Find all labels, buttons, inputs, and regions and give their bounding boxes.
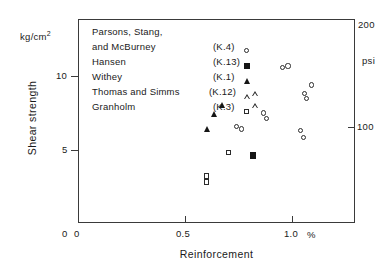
x-tick-mark-1.0 bbox=[292, 216, 293, 223]
y-tick-mark-10 bbox=[71, 76, 78, 77]
x-axis-title: Reinforcement bbox=[78, 248, 355, 260]
legend-marker-open-triangle bbox=[244, 90, 250, 101]
y-axis-unit-exponent: 2 bbox=[47, 30, 51, 37]
legend-marker-open-circle bbox=[244, 44, 249, 55]
right-axis-tick-label-200: 200 bbox=[358, 19, 375, 30]
legend-reference-granholm: (K.3) bbox=[213, 101, 235, 112]
y-axis-unit-text: kg/cm bbox=[20, 31, 47, 42]
x-tick-label-0.5: 0.5 bbox=[176, 228, 190, 239]
legend-marker-open-square bbox=[244, 105, 249, 116]
x-tick-label-1.0: 1.0 bbox=[284, 228, 298, 239]
scatter-chart-figure: kg/cm2 10 5 0 Shear strength 200 psi 100… bbox=[0, 0, 387, 277]
y-axis-title: Shear strength bbox=[26, 58, 38, 178]
x-axis-unit-label: % bbox=[307, 229, 316, 240]
legend-reference-hansen: (K.13) bbox=[213, 56, 240, 67]
right-axis-unit-label: psi bbox=[362, 55, 375, 66]
y-axis-unit-label: kg/cm2 bbox=[20, 30, 51, 42]
legend-label-granholm: Granholm bbox=[92, 101, 135, 112]
x-tick-label-0: 0 bbox=[74, 228, 80, 239]
legend-reference-thomas-simms: (K.12) bbox=[209, 86, 236, 97]
y-tick-label-0: 0 bbox=[62, 228, 68, 239]
y-tick-label-10: 10 bbox=[56, 70, 67, 81]
legend-reference-withey: (K.1) bbox=[213, 71, 235, 82]
legend-label-hansen: Hansen bbox=[92, 56, 126, 67]
legend-label-thomas-simms: Thomas and Simms bbox=[92, 86, 180, 97]
y-tick-mark-5 bbox=[71, 150, 78, 151]
legend-marker-filled-triangle bbox=[244, 75, 250, 86]
right-axis-tick-label-100: 100 bbox=[357, 121, 374, 132]
legend-label-parsons-line1: Parsons, Stang, bbox=[92, 26, 163, 37]
legend-label-parsons-line2: and McBurney bbox=[92, 41, 156, 52]
legend-marker-filled-square bbox=[244, 60, 250, 71]
right-tick-mark-100 bbox=[348, 127, 355, 128]
y-tick-label-5: 5 bbox=[62, 144, 68, 155]
legend-label-withey: Withey bbox=[92, 71, 122, 82]
x-tick-mark-0.5 bbox=[185, 216, 186, 223]
legend-reference-parsons: (K.4) bbox=[213, 41, 235, 52]
